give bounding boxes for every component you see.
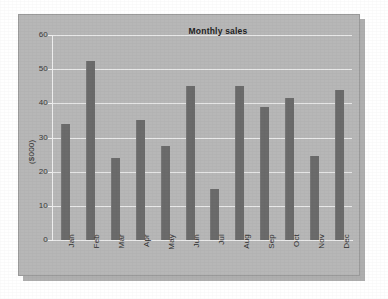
x-axis-tick-label: Feb: [93, 234, 101, 274]
gridline: [53, 172, 352, 173]
x-axis-tick-label: Nov: [318, 234, 326, 274]
y-axis-tick-mark: [48, 69, 52, 70]
y-axis-tick-label: 20: [22, 168, 48, 176]
bar[interactable]: [210, 189, 219, 240]
plot-area: [53, 35, 352, 240]
bar[interactable]: [235, 86, 244, 240]
x-axis-tick-label: Jan: [68, 234, 76, 274]
chart-figure: 6050403020100 Monthly sales ($000) JanFe…: [0, 0, 388, 299]
bar[interactable]: [260, 107, 269, 240]
gridline: [53, 69, 352, 70]
y-axis-tick-label: 0: [22, 236, 48, 244]
chart-title-text: Monthly sales: [189, 26, 248, 36]
y-axis-label: ($000): [27, 140, 36, 164]
x-axis-tick-label: Mar: [118, 234, 126, 274]
bar[interactable]: [86, 61, 95, 240]
y-axis-tick-mark: [48, 206, 52, 207]
y-axis-tick-mark: [48, 240, 52, 241]
x-axis-tick-label: May: [168, 234, 176, 274]
bar[interactable]: [111, 158, 120, 240]
y-axis-tick-label: 40: [22, 99, 48, 107]
y-axis-tick-mark: [48, 35, 52, 36]
bar[interactable]: [61, 124, 70, 240]
gridline: [53, 206, 352, 207]
bar[interactable]: [161, 146, 170, 240]
y-axis-tick-mark: [48, 172, 52, 173]
x-axis-tick-label: Aug: [243, 234, 251, 274]
gridline: [53, 138, 352, 139]
y-axis-tick-mark: [48, 138, 52, 139]
x-axis-tick-label: Jun: [193, 234, 201, 274]
y-axis-tick-label: 50: [22, 65, 48, 73]
x-axis-tick-label: Apr: [143, 234, 151, 274]
bar[interactable]: [310, 156, 319, 240]
bar[interactable]: [285, 98, 294, 240]
chart-title: Monthly sales: [0, 26, 388, 36]
y-axis-tick-mark: [48, 103, 52, 104]
bar[interactable]: [136, 120, 145, 240]
gridline: [53, 103, 352, 104]
y-axis-tick-label: 10: [22, 202, 48, 210]
x-axis-tick-label: Jul: [218, 234, 226, 274]
x-axis-tick-label: Dec: [343, 234, 351, 274]
bar[interactable]: [186, 86, 195, 240]
bar[interactable]: [335, 90, 344, 240]
x-axis-tick-label: Oct: [293, 234, 301, 274]
x-axis-tick-label: Sep: [268, 234, 276, 274]
